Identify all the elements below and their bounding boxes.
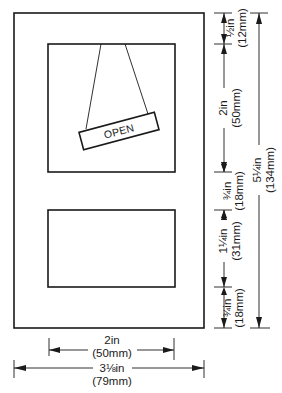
svg-text:1¼in: 1¼in: [217, 229, 229, 254]
svg-text:(50mm): (50mm): [92, 347, 132, 359]
lower-window: [48, 210, 175, 287]
label-top-margin: ½in (12mm): [224, 8, 248, 48]
svg-text:2in: 2in: [217, 100, 229, 115]
label-window-width: 2in (50mm): [92, 334, 132, 359]
vertical-dimension-chain: [214, 13, 232, 328]
svg-text:(50mm): (50mm): [230, 88, 242, 128]
svg-text:(134mm): (134mm): [264, 147, 276, 193]
svg-text:(79mm): (79mm): [92, 375, 132, 387]
label-gap-between-windows: ¾in (18mm): [221, 171, 245, 211]
svg-text:(31mm): (31mm): [230, 221, 242, 261]
svg-text:5¼in: 5¼in: [251, 158, 263, 183]
label-window1-height: 2in (50mm): [217, 88, 242, 128]
upper-window: [48, 44, 175, 172]
sign-string-right: [125, 44, 148, 114]
svg-text:(12mm): (12mm): [236, 8, 248, 48]
svg-text:½in: ½in: [224, 19, 236, 38]
svg-text:(18mm): (18mm): [233, 288, 245, 328]
panel-dimension-diagram: OPEN ½in (12mm): [0, 0, 282, 393]
svg-text:2in: 2in: [104, 334, 119, 346]
svg-text:3⅛in: 3⅛in: [100, 362, 125, 374]
label-window2-height: 1¼in (31mm): [217, 221, 242, 261]
svg-text:¾in: ¾in: [221, 299, 233, 318]
label-overall-width: 3⅛in (79mm): [92, 362, 132, 387]
sign-string-left: [86, 44, 101, 129]
label-overall-height: 5¼in (134mm): [251, 147, 276, 193]
svg-text:(18mm): (18mm): [233, 171, 245, 211]
svg-text:¾in: ¾in: [221, 182, 233, 201]
open-sign: OPEN: [79, 44, 159, 150]
